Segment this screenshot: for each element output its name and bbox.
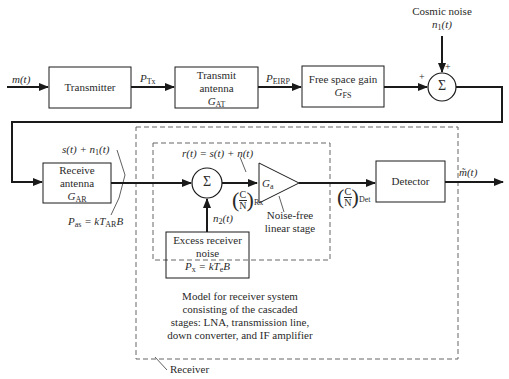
received-signal-label: s(t) + n1(t): [62, 143, 109, 159]
free-space-line1: Free space gain: [302, 73, 384, 86]
message-input-label: m(t): [12, 73, 30, 86]
cn-det-label: (CN)Det: [337, 187, 370, 208]
model-line1: Model for receiver system: [150, 290, 330, 303]
excess-noise-line2: noise: [166, 247, 249, 260]
p-as-label: Pas = kTARB: [68, 215, 123, 231]
free-space-block: Free space gain GFS: [302, 73, 384, 102]
summer-sigma-top: Σ: [434, 79, 450, 92]
receive-antenna-gain: GAR: [43, 190, 111, 206]
cn-rx-label: (CN)Rx: [232, 190, 263, 211]
plus-sign-top: +: [445, 60, 451, 73]
excess-noise-eq: Px = kTeB: [166, 260, 249, 276]
receive-antenna-line1: Receive: [43, 164, 111, 177]
n2-label: n2(t): [213, 212, 233, 228]
amplifier-gain: Ga: [262, 177, 274, 193]
model-line4: down converter, and IF amplifier: [150, 329, 330, 342]
detector-block: Detector: [376, 175, 445, 188]
receiver-label: Receiver: [170, 363, 209, 376]
excess-noise-block: Excess receiver noise Px = kTeB: [166, 234, 249, 276]
cosmic-noise-symbol: n1(t): [410, 18, 474, 34]
p-eirp-label: PEIRP: [266, 72, 290, 88]
model-line3: stages: LNA, transmission line,: [150, 316, 330, 329]
p-tx-label: PTx: [140, 72, 156, 88]
r-t-label: r(t) = s(t) + n(t): [182, 147, 253, 160]
output-signal-label: m̃(t): [459, 166, 477, 179]
receive-antenna-line2: antenna: [43, 177, 111, 190]
free-space-gain: GFS: [302, 86, 384, 102]
receive-antenna-block: Receive antenna GAR: [43, 164, 111, 206]
transmit-antenna-line1: Transmit: [175, 69, 258, 82]
transmit-antenna-line2: antenna: [175, 82, 258, 95]
excess-noise-line1: Excess receiver: [166, 234, 249, 247]
summer-sigma-receiver: Σ: [199, 175, 215, 188]
noise-free-annotation: Noise-free linear stage: [250, 209, 330, 235]
transmit-antenna-block: Transmit antenna GAT: [175, 69, 258, 111]
transmitter-block: Transmitter: [49, 81, 131, 94]
model-line2: consisting of the cascaded: [150, 303, 330, 316]
noise-free-line1: Noise-free: [250, 209, 330, 222]
plus-sign-left: +: [419, 70, 425, 83]
transmit-antenna-gain: GAT: [175, 95, 258, 111]
noise-free-line2: linear stage: [250, 222, 330, 235]
model-annotation: Model for receiver system consisting of …: [150, 290, 330, 342]
cosmic-noise-title: Cosmic noise: [410, 5, 474, 18]
